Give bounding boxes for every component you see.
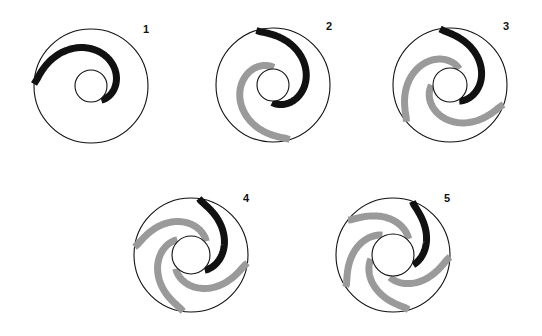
figure-2: 2 xyxy=(216,20,332,142)
figure-label-5: 5 xyxy=(444,192,450,204)
figure-label-2: 2 xyxy=(326,20,332,32)
figure-label-4: 4 xyxy=(243,192,250,204)
spiral-arm-black-1 xyxy=(413,201,427,264)
figure-1: 1 xyxy=(34,23,149,143)
figure-3: 3 xyxy=(393,20,509,142)
figure-sheet: 12345 xyxy=(0,0,542,336)
figure-label-3: 3 xyxy=(503,20,509,32)
figure-5: 5 xyxy=(336,192,450,312)
figure-4: 4 xyxy=(134,192,250,312)
figure-label-1: 1 xyxy=(143,23,149,35)
